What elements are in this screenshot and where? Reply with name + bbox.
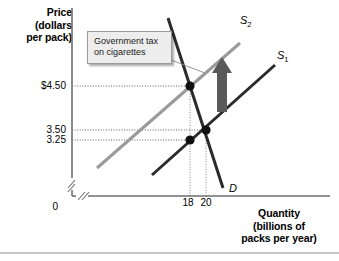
equilibrium-dot-producer-price [185,135,194,144]
y-axis-break-mark-1 [68,180,75,188]
x-axis-break-mark-2 [82,192,89,200]
equilibrium-dot-new [185,81,194,90]
demand-curve-d [168,18,223,188]
supply-demand-chart-figure: Price (dollars per pack) Quantity (billi… [0,0,339,261]
bottom-divider-rule [0,252,339,254]
callout-line-2: on cigarettes [94,47,166,58]
x-axis-break-mark-1 [78,192,85,200]
equilibrium-dot-original [201,125,210,134]
government-tax-callout: Government tax on cigarettes [87,31,172,64]
axis-break-marks [68,180,89,200]
callout-line-1: Government tax [94,36,166,47]
